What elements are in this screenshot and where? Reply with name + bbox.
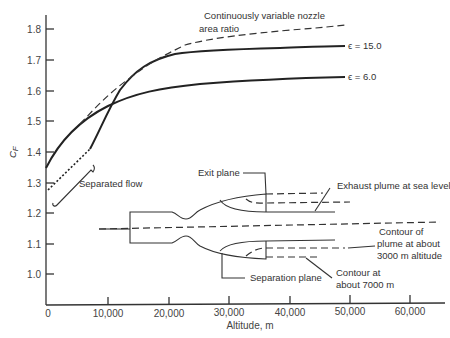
y-axis-label: CF	[7, 145, 20, 158]
x-tick-label: 20,000	[154, 308, 185, 319]
label-contour-7000-l1: Contour at	[336, 267, 381, 278]
x-tick-label: 10,000	[93, 308, 124, 319]
label-separated-flow: Separated flow	[79, 178, 143, 189]
y-tick-label: 1.4	[27, 147, 41, 158]
y-tick-label: 1.5	[27, 116, 41, 127]
label-variable-line2: area ratio	[199, 23, 239, 34]
label-contour-7000-l2: about 7000 m	[336, 279, 394, 290]
x-axis-label: Altitude, m	[226, 320, 273, 331]
label-eps-6: ϵ = 6.0	[348, 71, 376, 82]
curve-eps-6	[46, 77, 345, 168]
y-tick-label: 1.8	[27, 24, 41, 35]
label-separation-plane: Separation plane	[250, 272, 322, 283]
axes	[46, 15, 445, 305]
label-variable-line1: Continuously variable nozzle	[204, 10, 325, 21]
label-exit-plane: Exit plane	[198, 167, 240, 178]
y-tick-label: 1.3	[27, 178, 41, 189]
x-tick-label: 50,000	[335, 306, 366, 317]
label-contour-3000-l2: plume at about	[377, 238, 440, 249]
label-eps-15: ϵ = 15.0	[348, 40, 382, 51]
x-tick-label: 30,000	[214, 307, 245, 318]
y-tick-label: 1.7	[27, 55, 41, 66]
y-tick-label: 1.1	[27, 239, 41, 250]
label-exhaust-sea-level: Exhaust plume at sea level	[337, 180, 450, 191]
curve-variable-area-ratio	[80, 25, 345, 124]
nozzle-diagram: Exit plane Exhaust plume at sea level Co…	[99, 167, 450, 290]
label-contour-3000-l3: 3000 m altitude	[377, 250, 442, 261]
x-ticks: 0 10,000 20,000 30,000 40,000 50,000 60,…	[45, 295, 426, 319]
x-tick-label: 0	[45, 308, 51, 319]
x-axis	[46, 303, 445, 305]
x-tick-label: 40,000	[275, 307, 306, 318]
label-contour-3000-l1: Contour of	[379, 226, 424, 237]
x-tick-label: 60,000	[395, 306, 426, 317]
y-ticks: 1.0 1.1 1.2 1.3 1.4 1.5 1.6 1.7 1.8	[27, 24, 54, 280]
y-tick-label: 1.6	[27, 86, 41, 97]
y-tick-label: 1.2	[27, 208, 41, 219]
y-tick-label: 1.0	[27, 269, 41, 280]
thrust-coefficient-chart: 1.0 1.1 1.2 1.3 1.4 1.5 1.6 1.7 1.8 CF 0…	[0, 0, 450, 338]
